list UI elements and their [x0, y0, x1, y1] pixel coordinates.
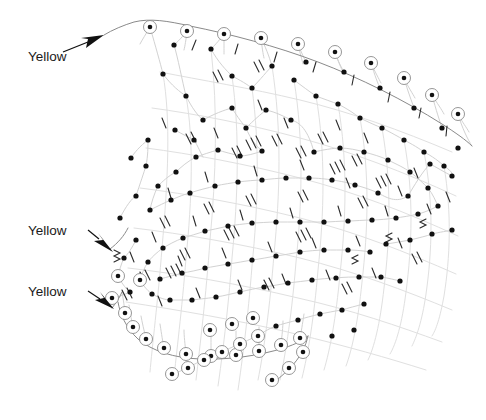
boundary-node [292, 38, 305, 51]
boundary-node [134, 274, 147, 287]
boundary-node [253, 345, 266, 358]
boundary-node [158, 342, 171, 355]
boundary-node [218, 28, 231, 41]
boundary-node [266, 374, 279, 387]
boundary-node [283, 362, 296, 375]
boundary-node [294, 332, 307, 345]
boundary-node [297, 346, 310, 359]
boundary-node [452, 108, 465, 121]
left-upper-boundary [110, 228, 128, 249]
boundary-node [181, 25, 194, 38]
annotation-top-arrowhead [81, 35, 104, 48]
boundary-node [182, 362, 195, 375]
annotation-top-label: Yellow [28, 49, 67, 64]
diagram-canvas: Yellow Yellow Yellow [0, 0, 486, 420]
mesh-diagram-svg: Yellow Yellow Yellow [0, 0, 486, 420]
boundary-node [144, 21, 157, 34]
annotation-middle-arrowhead [94, 233, 113, 252]
mesh-grid-faint [126, 49, 458, 390]
annotation-middle-label: Yellow [28, 223, 67, 238]
boundary-node [127, 321, 140, 334]
annotation-top-leader [63, 42, 88, 52]
boundary-node [204, 324, 217, 337]
boundary-node [426, 89, 439, 102]
boundary-node [112, 270, 125, 283]
boundary-node [140, 333, 153, 346]
boundary-node [247, 312, 260, 325]
boundary-node [166, 368, 179, 381]
boundary-node [255, 32, 268, 45]
annotation-bottom-leader [88, 291, 100, 299]
boundary-node [216, 346, 229, 359]
boundary-arcs [104, 20, 472, 383]
boundary-node [226, 318, 239, 331]
boundary-node [198, 354, 211, 367]
annotation-middle: Yellow [28, 223, 113, 252]
annotation-middle-leader [88, 230, 99, 239]
boundary-node [275, 339, 288, 352]
boundary-node [180, 348, 193, 361]
boundary-node [252, 330, 265, 343]
boundary-node [365, 57, 378, 70]
boundary-node [234, 338, 247, 351]
annotation-bottom-label: Yellow [28, 284, 67, 299]
boundary-node [329, 46, 342, 59]
boundary-node [119, 307, 132, 320]
boundary-node [398, 72, 411, 85]
annotation-bottom: Yellow [28, 284, 114, 309]
annotation-top: Yellow [28, 35, 104, 64]
